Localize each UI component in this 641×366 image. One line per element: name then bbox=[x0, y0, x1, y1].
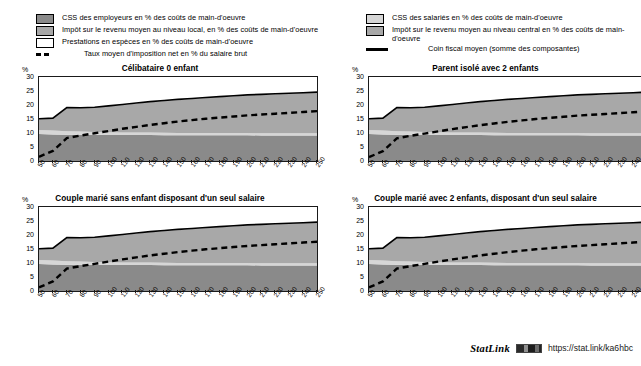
panel-title: Parent isolé avec 2 enfants bbox=[330, 64, 641, 73]
x-axis-tick-label: 80 bbox=[409, 159, 419, 169]
dashed-line-icon bbox=[36, 50, 52, 58]
x-axis-tick-label: 50 bbox=[367, 159, 377, 169]
y-axis-tick-label: 5 bbox=[360, 273, 364, 280]
dark-gray-square-icon bbox=[36, 14, 54, 24]
y-axis-tick-label: 30 bbox=[26, 73, 34, 80]
legend-item-income-tax-local: Impôt sur le revenu moyen au niveau loca… bbox=[36, 25, 336, 36]
x-axis-tick-label: 90 bbox=[93, 289, 103, 299]
legend-column-right: CSS des salariés en % des coûts de main-… bbox=[366, 13, 641, 55]
y-axis-tick-label: 20 bbox=[356, 231, 364, 238]
legend-item-employer-ssc: CSS des employeurs en % des coûts de mai… bbox=[36, 13, 336, 24]
legend-column-left: CSS des employeurs en % des coûts de mai… bbox=[36, 13, 336, 60]
x-axis-tick-label: 60 bbox=[381, 159, 391, 169]
y-axis-labels: 051015202530 bbox=[348, 206, 364, 290]
legend-label: CSS des salariés en % des coûts de main-… bbox=[392, 13, 563, 22]
x-axis-labels: 5060708090100110120130140150160170180190… bbox=[368, 290, 641, 318]
area-income_tax_central bbox=[369, 222, 641, 263]
x-axis-tick-label: 70 bbox=[65, 159, 75, 169]
x-axis-labels: 5060708090100110120130140150160170180190… bbox=[38, 290, 316, 318]
x-axis-tick-label: 90 bbox=[93, 159, 103, 169]
x-axis-tick-label: 110 bbox=[120, 286, 131, 298]
mid-gray-square-icon bbox=[36, 26, 54, 36]
x-axis-tick-label: 80 bbox=[409, 289, 419, 299]
y-axis-labels: 051015202530 bbox=[18, 206, 34, 290]
y-axis-tick-label: 30 bbox=[356, 73, 364, 80]
y-axis-tick-label: 10 bbox=[26, 259, 34, 266]
panel-title: Couple marié avec 2 enfants, disposant d… bbox=[330, 194, 641, 203]
legend-item-cash-benefits: Prestations en espèces en % des coûts de… bbox=[36, 37, 336, 48]
x-axis-tick-label: 50 bbox=[367, 289, 377, 299]
chart-panel-couple-marie-sans-enfant: Couple marié sans enfant disposant d'un … bbox=[0, 190, 320, 320]
legend-label: CSS des employeurs en % des coûts de mai… bbox=[62, 13, 245, 22]
y-axis-tick-label: 20 bbox=[26, 101, 34, 108]
y-axis-tick-label: 5 bbox=[30, 273, 34, 280]
stacked-area-series bbox=[39, 207, 317, 291]
x-axis-tick-label: 210 bbox=[259, 286, 271, 299]
legend-label: Impôt sur le revenu moyen au niveau cent… bbox=[392, 25, 641, 43]
stacked-area-series bbox=[369, 207, 641, 291]
x-axis-labels: 5060708090100110120130140150160170180190… bbox=[368, 160, 641, 188]
plot-area bbox=[38, 206, 318, 292]
area-employer_ssc bbox=[369, 264, 641, 291]
legend-label: Coin fiscal moyen (somme des composantes… bbox=[428, 44, 580, 53]
x-axis-tick-label: 60 bbox=[51, 289, 61, 299]
y-axis-tick-label: 5 bbox=[30, 143, 34, 150]
y-axis-tick-label: 0 bbox=[30, 287, 34, 294]
y-axis-tick-label: 20 bbox=[26, 231, 34, 238]
x-axis-tick-label: 110 bbox=[450, 156, 461, 168]
stacked-area-series bbox=[39, 77, 317, 161]
x-axis-tick-label: 110 bbox=[450, 286, 461, 298]
y-axis-tick-label: 15 bbox=[26, 245, 34, 252]
y-axis-tick-label: 0 bbox=[360, 287, 364, 294]
legend-label: Impôt sur le revenu moyen au niveau loca… bbox=[62, 25, 318, 34]
y-axis-tick-label: 10 bbox=[26, 129, 34, 136]
legend-item-net-tax-rate: Taux moyen d'imposition net en % du sala… bbox=[36, 49, 336, 59]
chart-legend: CSS des employeurs en % des coûts de mai… bbox=[0, 0, 641, 60]
x-axis-tick-label: 80 bbox=[79, 159, 89, 169]
y-axis-labels: 051015202530 bbox=[348, 76, 364, 160]
x-axis-tick-label: 50 bbox=[37, 159, 47, 169]
panel-title: Couple marié sans enfant disposant d'un … bbox=[0, 194, 320, 203]
x-axis-tick-label: 110 bbox=[120, 156, 131, 168]
y-axis-tick-label: 25 bbox=[356, 87, 364, 94]
plot-area bbox=[38, 76, 318, 162]
y-axis-tick-label: 5 bbox=[360, 143, 364, 150]
y-axis-labels: 051015202530 bbox=[18, 76, 34, 160]
y-axis-tick-label: 25 bbox=[356, 217, 364, 224]
x-axis-tick-label: 90 bbox=[423, 159, 433, 169]
stacked-area-series bbox=[369, 77, 641, 161]
y-axis-tick-label: 30 bbox=[26, 203, 34, 210]
statlink-url[interactable]: https://stat.link/ka6hbc bbox=[548, 343, 633, 353]
area-employer_ssc bbox=[39, 134, 317, 161]
legend-item-income-tax-central: Impôt sur le revenu moyen au niveau cent… bbox=[366, 25, 641, 43]
x-axis-tick-label: 50 bbox=[37, 289, 47, 299]
legend-label: Prestations en espèces en % des coûts de… bbox=[62, 37, 253, 46]
y-axis-tick-label: 20 bbox=[356, 101, 364, 108]
light-gray-square-icon bbox=[366, 14, 384, 24]
panel-title: Célibataire 0 enfant bbox=[0, 64, 320, 73]
x-axis-tick-label: 70 bbox=[395, 289, 405, 299]
x-axis-tick-label: 210 bbox=[589, 286, 601, 299]
chart-panel-celibataire-0-enfant: Célibataire 0 enfant %051015202530506070… bbox=[0, 60, 320, 190]
solid-line-icon bbox=[366, 45, 388, 53]
y-axis-tick-label: 25 bbox=[26, 217, 34, 224]
chart-panel-parent-isole-2-enfants: Parent isolé avec 2 enfants %05101520253… bbox=[330, 60, 641, 190]
y-axis-tick-label: 10 bbox=[356, 129, 364, 136]
statlink-footer: StatLink https://stat.link/ka6hbc bbox=[0, 336, 641, 360]
y-axis-tick-label: 25 bbox=[26, 87, 34, 94]
white-square-icon bbox=[36, 38, 54, 48]
y-axis-tick-label: 15 bbox=[356, 115, 364, 122]
statlink-barcode-icon bbox=[516, 344, 542, 353]
area-employer_ssc bbox=[39, 264, 317, 291]
plot-area bbox=[368, 76, 641, 162]
x-axis-tick-label: 210 bbox=[259, 156, 271, 169]
x-axis-tick-label: 70 bbox=[395, 159, 405, 169]
y-axis-tick-label: 30 bbox=[356, 203, 364, 210]
legend-item-employee-ssc: CSS des salariés en % des coûts de main-… bbox=[366, 13, 641, 24]
y-axis-tick-label: 15 bbox=[356, 245, 364, 252]
x-axis-tick-label: 210 bbox=[589, 156, 601, 169]
area-income_tax_central bbox=[39, 222, 317, 263]
x-axis-tick-label: 60 bbox=[381, 289, 391, 299]
y-axis-tick-label: 0 bbox=[360, 157, 364, 164]
statlink-label: StatLink bbox=[470, 343, 510, 354]
